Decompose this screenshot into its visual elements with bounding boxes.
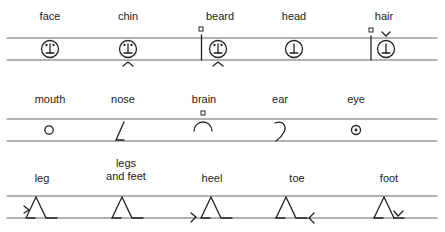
mouth-icon bbox=[45, 126, 53, 134]
leg-icon bbox=[24, 197, 57, 218]
nose-icon bbox=[116, 122, 124, 140]
toe-icon bbox=[276, 197, 314, 223]
ear-icon bbox=[275, 122, 285, 141]
notation-diagram bbox=[0, 0, 445, 232]
legs-and-feet-icon bbox=[112, 197, 143, 218]
head-icon bbox=[286, 41, 303, 58]
chin-icon bbox=[120, 41, 137, 67]
foot-icon bbox=[374, 197, 404, 218]
brain-icon bbox=[194, 111, 212, 131]
eye-icon bbox=[352, 126, 361, 135]
face-circle-icon bbox=[42, 41, 59, 58]
hair-icon bbox=[369, 28, 395, 60]
